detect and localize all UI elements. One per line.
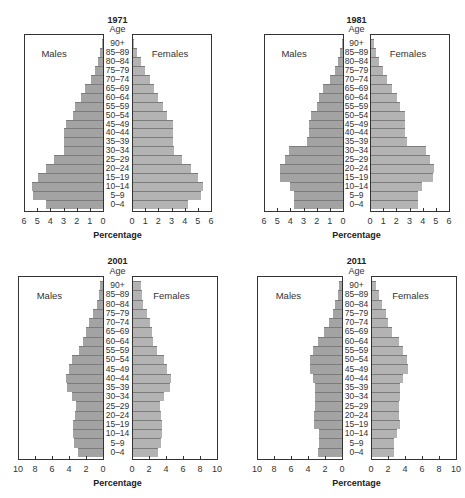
female-bar: [372, 346, 403, 355]
age-group-label: 10–14: [98, 429, 138, 438]
female-bar: [133, 111, 167, 120]
x-tick: [132, 208, 133, 212]
x-tick-label: 0: [332, 464, 352, 474]
age-group-label: 50–54: [98, 355, 138, 364]
age-axis-header: Age: [98, 24, 138, 34]
x-tick: [383, 208, 384, 212]
x-tick: [172, 208, 173, 212]
female-bar: [133, 155, 182, 164]
x-tick: [439, 456, 440, 460]
female-bar: [133, 182, 203, 191]
female-bar: [133, 392, 164, 401]
male-bar: [46, 164, 103, 173]
female-bar: [372, 364, 408, 373]
female-bar: [371, 155, 430, 164]
female-bar: [133, 164, 191, 173]
male-bar: [38, 173, 103, 182]
x-tick: [18, 456, 19, 460]
x-tick: [166, 456, 167, 460]
x-tick: [277, 208, 278, 212]
female-bar: [133, 200, 188, 209]
x-tick: [77, 208, 78, 212]
x-tick: [103, 456, 104, 460]
female-bar: [372, 355, 407, 364]
x-tick: [132, 456, 133, 460]
chart-title: 2001: [98, 256, 138, 266]
x-tick: [37, 208, 38, 212]
female-bar: [133, 374, 171, 383]
x-tick: [69, 456, 70, 460]
x-tick-label: 0: [93, 216, 113, 226]
x-tick-label: 10: [446, 464, 465, 474]
x-tick: [211, 208, 212, 212]
age-group-label: 50–54: [337, 355, 377, 364]
x-tick: [317, 208, 318, 212]
x-tick: [274, 456, 275, 460]
x-axis-label: Percentage: [317, 478, 397, 488]
male-bar: [32, 182, 103, 191]
x-tick: [342, 456, 343, 460]
x-tick: [396, 208, 397, 212]
x-tick-label: 0: [93, 464, 113, 474]
female-bar: [133, 355, 164, 364]
x-tick: [183, 456, 184, 460]
female-bar: [133, 191, 201, 200]
x-tick: [291, 456, 292, 460]
male-bar: [289, 146, 343, 155]
x-tick: [149, 456, 150, 460]
legend-females: Females: [152, 48, 188, 59]
male-bar: [280, 173, 343, 182]
female-bar: [371, 173, 433, 182]
x-tick: [290, 208, 291, 212]
x-tick: [370, 208, 371, 212]
x-tick: [308, 456, 309, 460]
female-bar: [133, 102, 163, 111]
male-bar: [290, 182, 343, 191]
x-tick: [35, 456, 36, 460]
x-axis-label: Percentage: [78, 230, 158, 240]
female-bar: [371, 182, 422, 191]
x-tick: [304, 208, 305, 212]
x-tick: [423, 208, 424, 212]
female-bar: [371, 164, 434, 173]
age-axis-header: Age: [337, 266, 377, 276]
male-bar: [54, 155, 103, 164]
x-tick: [388, 456, 389, 460]
x-tick: [200, 456, 201, 460]
x-tick: [185, 208, 186, 212]
legend-females: Females: [153, 290, 189, 301]
female-bar: [133, 146, 174, 155]
age-group-label: 30–34: [337, 392, 377, 401]
male-bar: [46, 200, 103, 209]
female-bar: [133, 128, 173, 137]
age-axis-header: Age: [337, 24, 377, 34]
legend-females: Females: [390, 48, 426, 59]
x-tick: [371, 456, 372, 460]
x-tick-label: 10: [207, 464, 227, 474]
x-tick: [456, 456, 457, 460]
x-tick: [449, 208, 450, 212]
female-bar: [371, 146, 426, 155]
legend-males: Males: [276, 290, 301, 301]
female-bar: [133, 383, 170, 392]
x-tick: [257, 456, 258, 460]
age-group-label: 30–34: [98, 392, 138, 401]
x-axis-label: Percentage: [317, 230, 397, 240]
chart-title: 2011: [337, 256, 377, 266]
female-bar: [371, 191, 418, 200]
x-tick: [410, 208, 411, 212]
x-tick: [325, 456, 326, 460]
female-bar: [372, 374, 403, 383]
x-tick: [90, 208, 91, 212]
male-bar: [280, 164, 343, 173]
legend-males: Males: [281, 48, 306, 59]
x-tick: [422, 456, 423, 460]
x-tick: [158, 208, 159, 212]
x-tick: [343, 208, 344, 212]
x-axis-label: Percentage: [78, 478, 158, 488]
x-tick: [198, 208, 199, 212]
x-tick: [50, 208, 51, 212]
x-tick: [217, 456, 218, 460]
female-bar: [133, 173, 198, 182]
x-tick: [330, 208, 331, 212]
